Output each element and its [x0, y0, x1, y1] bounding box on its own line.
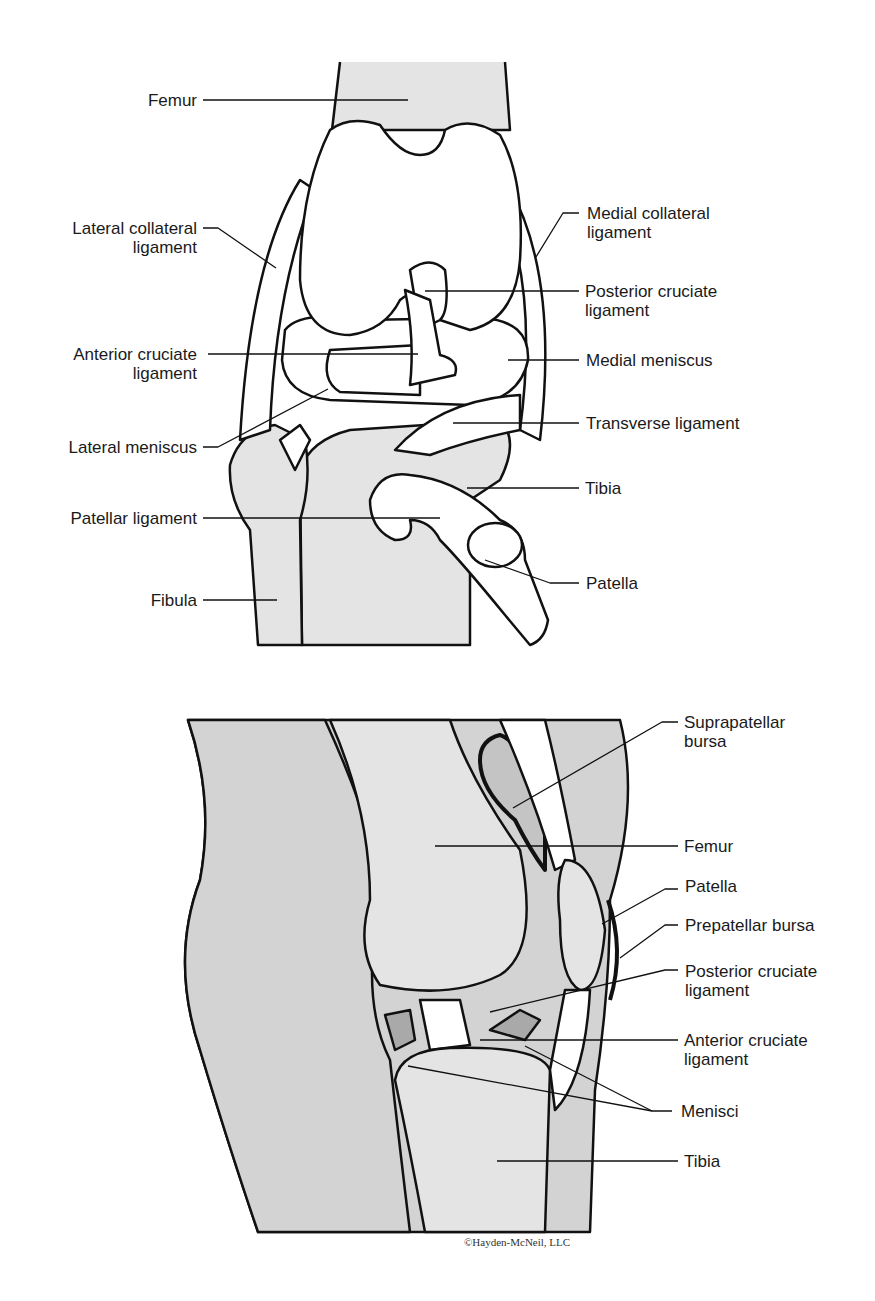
patella [468, 523, 522, 567]
sagittal-knee-diagram [185, 720, 678, 1232]
copyright-notice: ©Hayden-McNeil, LLC [464, 1236, 570, 1248]
label-lateral-meniscus: Lateral meniscus [68, 438, 197, 457]
label-medial-collateral-ligament: Medial collateralligament [587, 204, 710, 242]
label-patellar-ligament: Patellar ligament [70, 509, 197, 528]
label-transverse-ligament: Transverse ligament [586, 414, 739, 433]
label-anterior-cruciate-ligament-sagittal: Anterior cruciateligament [684, 1031, 808, 1069]
label-posterior-cruciate-ligament-sagittal: Posterior cruciateligament [685, 962, 817, 1000]
label-patella: Patella [586, 574, 638, 593]
label-suprapatellar-bursa: Suprapatellarbursa [684, 713, 785, 751]
label-patella-sagittal: Patella [685, 877, 737, 896]
cruciate-ligaments [420, 1000, 470, 1050]
knee-anatomy-illustration [0, 0, 875, 1301]
label-lateral-collateral-ligament: Lateral collateralligament [72, 219, 197, 257]
label-posterior-cruciate-ligament: Posterior cruciateligament [585, 282, 717, 320]
label-femur-sagittal: Femur [684, 837, 733, 856]
label-prepatellar-bursa: Prepatellar bursa [685, 916, 814, 935]
label-medial-meniscus: Medial meniscus [586, 351, 713, 370]
label-tibia: Tibia [585, 479, 621, 498]
anterior-knee-diagram [203, 62, 579, 645]
label-menisci: Menisci [681, 1102, 739, 1121]
label-anterior-cruciate-ligament: Anterior cruciateligament [73, 345, 197, 383]
label-femur: Femur [148, 91, 197, 110]
label-fibula: Fibula [151, 591, 197, 610]
label-tibia-sagittal: Tibia [684, 1152, 720, 1171]
